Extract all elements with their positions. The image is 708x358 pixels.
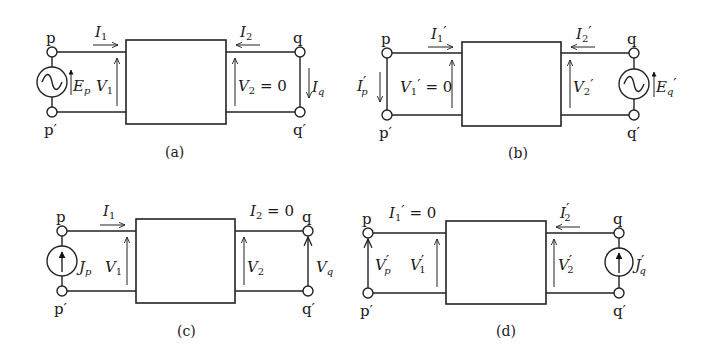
two-port-network-box [126,40,226,124]
two-port-network-box [136,219,235,303]
label-V2: V′2 [558,252,574,275]
label-V2: V2 [247,258,264,277]
label-q: q [293,29,303,47]
label-I2: I2 = 0 [249,202,294,221]
label-p-prime: p′ [54,300,68,318]
label-V2: V2′ [573,76,594,97]
label-q-prime: q′ [302,300,316,318]
label-Vq: Vq [316,258,333,277]
terminal-q [295,47,305,57]
label-V1: V1 [105,258,122,277]
label-I1: I1 [102,202,115,221]
two-port-network-box [462,42,561,126]
terminal-p-prime [363,288,373,298]
label-Jq: J′q [632,252,646,276]
terminal-q-prime [614,288,624,298]
panel-d: p p′ q q′ I1′ = 0 I′2 V′p V′1 V′2 J′q (d… [360,200,646,339]
label-q: q [627,30,637,48]
label-q-prime: q′ [293,121,307,139]
label-p: p [362,210,372,228]
label-q-prime: q′ [613,302,627,320]
terminal-p-prime [47,107,57,117]
caption-a: (a) [165,144,184,160]
label-I1: I1 [94,23,107,42]
label-p: p [381,30,391,48]
label-p: p [46,29,56,47]
label-Ip: I′p [356,73,368,97]
label-Jp: Jp [76,258,92,277]
label-I2: I′2 [559,200,571,223]
panel-b: p p′ q q′ I1′ I2′ I′p V1′ = 0 V2′ Eq′ (b… [356,23,677,161]
label-Vp: V′p [375,252,391,276]
terminal-q [629,48,639,58]
terminal-p [382,48,392,58]
panel-a: p p′ q q′ I1 I2 Ep V1 V2 = 0 Iq (a) [37,23,324,160]
terminal-p-prime [57,286,67,296]
label-I2: I2 [239,23,252,42]
label-V1: V′1 [410,252,426,275]
caption-d: (d) [496,323,516,339]
two-port-network-box [446,221,546,304]
label-p-prime: p′ [44,121,58,139]
caption-c: (c) [177,323,196,339]
terminal-p-prime [382,110,392,120]
label-p: p [56,208,66,226]
terminal-q-prime [629,110,639,120]
label-I1: I1′ [430,23,447,44]
terminal-p [363,228,373,238]
terminal-q-prime [303,286,313,296]
label-V1: V1 [96,77,113,96]
label-q: q [302,208,312,226]
label-q: q [613,210,623,228]
voltage-source-icon [619,69,654,99]
voltage-source-icon [37,67,71,97]
terminal-p [47,47,57,57]
label-p-prime: p′ [379,124,393,142]
panel-c: p p′ q q′ I1 I2 = 0 Jp V1 V2 Vq (c) [47,202,333,339]
label-V1: V1′ = 0 [400,76,452,97]
terminal-q [303,226,313,236]
label-q-prime: q′ [627,124,641,142]
terminal-q [614,228,624,238]
label-Ep: Ep [72,77,91,96]
current-source-icon [605,248,633,276]
label-I2: I2′ [575,23,592,44]
current-source-icon [47,246,77,276]
label-Iq: Iq [311,78,324,97]
terminal-q-prime [295,107,305,117]
two-port-reciprocity-figure: p p′ q q′ I1 I2 Ep V1 V2 = 0 Iq (a) [0,0,708,358]
label-I1: I1′ = 0 [388,202,436,223]
terminal-p [57,226,67,236]
label-V2: V2 = 0 [238,77,287,96]
label-Eq: Eq′ [655,75,677,97]
label-p-prime: p′ [360,302,374,320]
caption-b: (b) [508,145,528,161]
